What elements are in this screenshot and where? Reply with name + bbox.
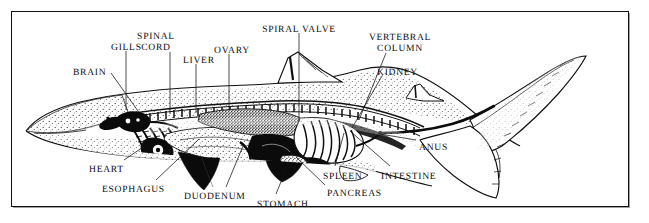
label-kidney: KIDNEY xyxy=(377,68,418,79)
label-esophagus: ESOPHAGUS xyxy=(102,185,165,196)
label-heart: HEART xyxy=(89,165,124,176)
label-stomach: STOMACH xyxy=(257,200,309,211)
label-ovary: OVARY xyxy=(214,46,250,57)
label-brain: BRAIN xyxy=(73,68,106,79)
pectoral-fin xyxy=(178,152,220,190)
label-duodenum: DUODENUM xyxy=(184,192,246,203)
label-intestine: INTESTINE xyxy=(381,172,436,183)
label-liver: LIVER xyxy=(183,56,215,67)
label-vertebral-column: VERTEBRAL COLUMN xyxy=(340,33,460,54)
label-spleen: SPLEEN xyxy=(323,172,362,183)
label-pancreas: PANCREAS xyxy=(327,189,382,200)
dorsal-fin xyxy=(278,52,342,83)
figure-root: BRAINGILLSSPINAL CORDLIVEROVARYSPIRAL VA… xyxy=(0,0,649,223)
label-spinal-cord: SPINAL CORD xyxy=(96,32,216,53)
label-anus: ANUS xyxy=(419,143,448,154)
